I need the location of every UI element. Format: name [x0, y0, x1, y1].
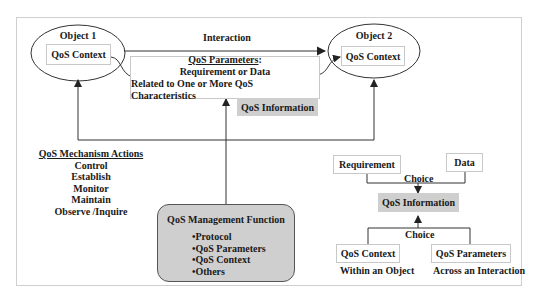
- qos-information-tag: QoS Information: [237, 98, 318, 116]
- management-function-list: •Protocol •QoS Parameters •QoS Context •…: [192, 231, 266, 277]
- mechanism-action-item: Control: [36, 160, 146, 172]
- qos-management-function-box: QoS Management Function •Protocol •QoS P…: [157, 204, 295, 282]
- interaction-label: Interaction: [203, 32, 251, 44]
- object2-title: Object 2: [344, 30, 404, 42]
- title-suffix: :: [258, 54, 261, 65]
- mechanism-action-item: Monitor: [36, 183, 146, 195]
- data-box: Data: [446, 153, 483, 172]
- choice-bottom-label: Choice: [405, 229, 434, 241]
- management-item: •QoS Parameters: [192, 243, 266, 255]
- mechanism-actions: QoS Mechanism Actions Control Establish …: [36, 148, 146, 217]
- requirement-box: Requirement: [333, 155, 401, 174]
- qos-parameters-box: QoS Parameters: Requirement or Data Rela…: [130, 56, 320, 99]
- mechanism-action-item: Observe /Inquire: [36, 206, 146, 218]
- context-caption: Within an Object: [340, 265, 414, 277]
- management-item: •Protocol: [192, 231, 266, 243]
- mechanism-action-item: Maintain: [36, 194, 146, 206]
- object2-context-box: QoS Context: [341, 46, 405, 66]
- qos-context-leaf-box: QoS Context: [336, 244, 400, 263]
- mechanism-actions-title: QoS Mechanism Actions: [36, 148, 146, 160]
- mechanism-action-item: Establish: [36, 171, 146, 183]
- management-item: •QoS Context: [192, 254, 266, 266]
- object1-title: Object 1: [48, 30, 108, 42]
- choice-top-label: Choice: [404, 173, 433, 185]
- management-item: •Others: [192, 266, 266, 278]
- qos-parameters-title: QoS Parameters: [188, 54, 258, 65]
- parameters-caption: Across an Interaction: [433, 265, 525, 277]
- qos-information-box: QoS Information: [378, 193, 459, 212]
- management-function-title: QoS Management Function: [158, 214, 294, 226]
- qos-parameters-line1: Requirement or Data: [180, 66, 271, 78]
- qos-parameters-leaf-box: QoS Parameters: [431, 244, 511, 263]
- object1-context-box: QoS Context: [46, 44, 111, 65]
